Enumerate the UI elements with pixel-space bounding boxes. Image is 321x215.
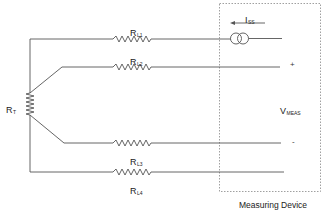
label-rl1-sub: L1 bbox=[137, 32, 143, 38]
label-iss: ISS bbox=[245, 10, 255, 26]
label-rl2-main: R bbox=[130, 57, 137, 67]
label-rt-main: R bbox=[6, 105, 13, 115]
label-rl1: RL1 bbox=[130, 23, 143, 39]
current-arrow-head-icon bbox=[230, 21, 235, 25]
resistor-rl3-icon bbox=[113, 140, 153, 146]
current-source-icon-b bbox=[238, 33, 249, 44]
label-rt-sub: T bbox=[13, 109, 16, 115]
wire-3-diagonal bbox=[30, 115, 64, 143]
plus-sign: + bbox=[290, 61, 295, 69]
minus-sign: - bbox=[292, 138, 295, 146]
label-iss-sub: SS bbox=[248, 19, 255, 25]
label-rl4-main: R bbox=[130, 186, 137, 196]
label-rl4-sub: L4 bbox=[137, 190, 143, 196]
measuring-device-caption: Measuring Device bbox=[239, 201, 307, 210]
circuit-diagram bbox=[0, 0, 321, 215]
measuring-device-box bbox=[220, 4, 321, 192]
sensor-rt-coil-icon bbox=[26, 93, 34, 115]
label-vmeas-sub: MEAS bbox=[287, 110, 301, 116]
label-rl2: RL2 bbox=[130, 52, 143, 68]
label-rl3-sub: L3 bbox=[137, 161, 143, 167]
label-rl1-main: R bbox=[130, 28, 137, 38]
resistor-rl4-icon bbox=[113, 169, 153, 175]
label-rl3-main: R bbox=[130, 157, 137, 167]
wire-2-diagonal bbox=[30, 67, 62, 93]
label-vmeas: VMEAS bbox=[280, 101, 301, 117]
label-rl2-sub: L2 bbox=[137, 61, 143, 67]
label-rt: RT bbox=[6, 100, 16, 116]
current-source-icon-a bbox=[231, 33, 242, 44]
label-rl3: RL3 bbox=[130, 152, 143, 168]
label-vmeas-main: V bbox=[280, 106, 286, 116]
label-rl4: RL4 bbox=[130, 181, 143, 197]
